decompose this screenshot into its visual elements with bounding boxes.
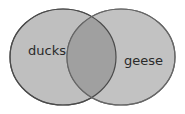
set-label-ducks: ducks (28, 43, 66, 58)
set-label-geese: geese (124, 53, 163, 68)
venn-diagram: ducks geese (0, 0, 185, 114)
